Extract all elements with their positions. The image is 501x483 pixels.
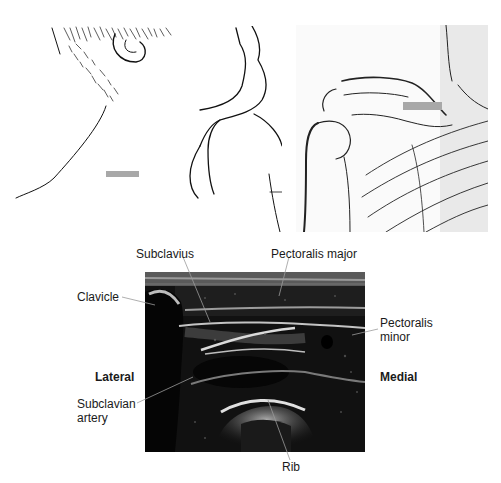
neck-outline-drawing [14,26,282,232]
ultrasound-image [145,272,365,452]
label-subclavius: Subclavius [136,247,194,261]
label-pectoralis-minor: Pectoralis minor [380,316,433,344]
label-subclavian-artery: Subclavian artery [77,397,136,425]
label-rib: Rib [282,460,300,474]
shoulder-skeleton-drawing [296,25,488,232]
label-medial: Medial [380,370,417,384]
ultrasound-echo-pattern [145,272,365,452]
probe-position-marker [106,171,139,177]
neck-shoulder-photo [14,26,282,232]
probe-position-marker [403,102,442,110]
label-pectoralis-minor-line2: minor [380,330,433,344]
label-clavicle: Clavicle [77,290,119,304]
label-pectoralis-minor-line1: Pectoralis [380,316,433,330]
label-subclavian-artery-line2: artery [77,411,136,425]
skeleton-outline-drawing [296,25,488,232]
label-lateral: Lateral [95,370,134,384]
label-subclavian-artery-line1: Subclavian [77,397,136,411]
label-pectoralis-major: Pectoralis major [271,247,357,261]
